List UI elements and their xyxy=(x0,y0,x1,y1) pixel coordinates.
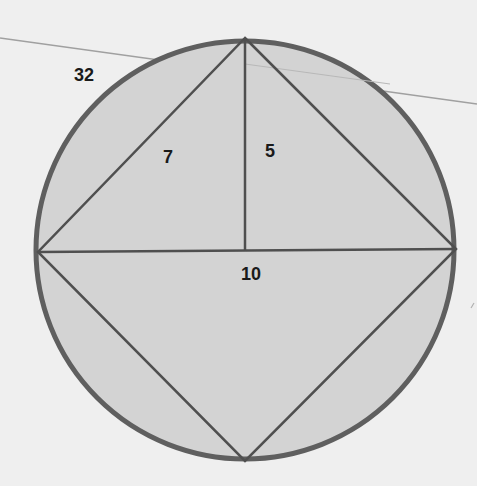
label-side-7: 7 xyxy=(163,148,173,166)
edge-mark xyxy=(471,303,474,308)
geometry-diagram xyxy=(0,0,477,486)
label-altitude-5: 5 xyxy=(265,142,275,160)
label-outside-32: 32 xyxy=(74,66,94,84)
label-diagonal-10: 10 xyxy=(241,265,261,283)
